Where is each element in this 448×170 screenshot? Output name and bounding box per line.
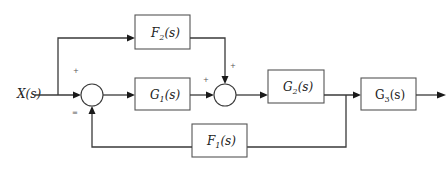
svg-text:F1(s): F1(s) [206, 134, 236, 150]
sum2-plus-sign-left: + [203, 76, 209, 84]
arrow-icon [73, 92, 81, 99]
arrow-icon [260, 92, 268, 99]
arrow-icon [89, 106, 96, 114]
arrow-icon [206, 92, 214, 99]
arrow-icon [437, 92, 446, 99]
block-f1: F1(s) [192, 124, 247, 157]
sum1-plus-sign: + [73, 67, 79, 75]
sum2-plus-sign-top: + [230, 62, 236, 70]
arrow-icon [222, 76, 229, 84]
f1-to-sum1-line [92, 110, 192, 147]
svg-text:G1(s): G1(s) [150, 88, 181, 104]
svg-text:F2(s): F2(s) [150, 26, 180, 42]
svg-text:G2(s): G2(s) [283, 80, 314, 96]
arrow-icon [353, 92, 361, 99]
arrow-icon [127, 35, 135, 42]
block-g3: G3(s) [361, 78, 416, 110]
block-g2: G2(s) [268, 70, 324, 103]
summing-junction-1 [81, 84, 103, 106]
block-f2: F2(s) [135, 15, 190, 49]
f2-to-sum2-line [190, 38, 225, 80]
svg-text:G3(s): G3(s) [375, 88, 405, 104]
arrow-icon [127, 92, 135, 99]
block-diagram: X(s) + = F2(s) G1(s) + + G2(s) G3(s [0, 0, 448, 170]
sum1-minus-sign: = [72, 109, 78, 117]
block-g1: G1(s) [135, 78, 190, 110]
summing-junction-2 [214, 84, 236, 106]
input-label: X(s) [16, 87, 41, 101]
